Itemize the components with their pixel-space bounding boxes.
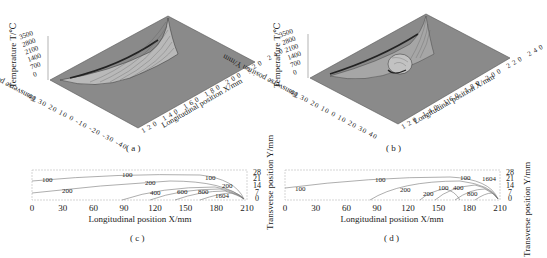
- svg-text:60: 60: [342, 203, 352, 213]
- svg-text:0: 0: [508, 194, 512, 203]
- panel-d-contour: 100 100 100 200 200 100 400 800 1604 0 3…: [270, 155, 540, 258]
- svg-text:100: 100: [205, 174, 216, 182]
- surface-plot-b: [270, 0, 540, 160]
- svg-text:1604: 1604: [482, 175, 497, 183]
- svg-text:0: 0: [283, 203, 288, 213]
- caption-c: ( c ): [130, 233, 145, 243]
- svg-text:100: 100: [122, 171, 133, 179]
- contour-plot-d: 100 100 100 200 200 100 400 800 1604 0 3…: [270, 155, 540, 258]
- svg-text:120: 120: [401, 203, 415, 213]
- svg-text:180: 180: [463, 203, 477, 213]
- svg-text:200: 200: [400, 186, 411, 194]
- x-axis-label-c: Longitudinal position X/mm: [89, 214, 192, 224]
- svg-text:200: 200: [145, 179, 156, 187]
- z-axis-label-a: Temperature T/℃: [8, 23, 18, 89]
- svg-text:400: 400: [150, 189, 161, 197]
- svg-text:90: 90: [373, 203, 383, 213]
- svg-text:90: 90: [120, 203, 130, 213]
- svg-text:100: 100: [42, 176, 53, 184]
- svg-text:1604: 1604: [215, 192, 230, 200]
- svg-text:600: 600: [177, 188, 188, 196]
- svg-text:200: 200: [222, 182, 233, 190]
- caption-b: ( b ): [386, 143, 401, 153]
- svg-text:400: 400: [453, 184, 464, 192]
- svg-text:0: 0: [255, 194, 259, 203]
- svg-text:150: 150: [179, 203, 193, 213]
- svg-text:200: 200: [62, 187, 73, 195]
- svg-text:180: 180: [210, 203, 224, 213]
- svg-text:800: 800: [467, 190, 478, 198]
- svg-text:210: 210: [240, 203, 254, 213]
- svg-text:120: 120: [148, 203, 162, 213]
- svg-text:210: 210: [493, 203, 507, 213]
- svg-text:30: 30: [311, 203, 321, 213]
- caption-d: ( d ): [384, 233, 399, 243]
- panel-a-surface: Temperature T/℃ 35002800210014007000 40 …: [0, 0, 270, 160]
- svg-text:0: 0: [30, 203, 35, 213]
- svg-text:150: 150: [432, 203, 446, 213]
- svg-text:200: 200: [423, 190, 434, 198]
- svg-text:60: 60: [89, 203, 99, 213]
- panel-c-contour: 100 100 100 200 200 200 400 600 800 1604…: [0, 155, 270, 258]
- svg-text:30: 30: [58, 203, 68, 213]
- svg-text:100: 100: [295, 185, 306, 193]
- svg-text:100: 100: [438, 184, 449, 192]
- panel-b-surface: Temperature T/℃ 35002800210014007000 40 …: [270, 0, 540, 160]
- svg-text:100: 100: [460, 174, 471, 182]
- y-axis-label-d: Transverse position Y/mm: [522, 162, 532, 257]
- x-axis-label-d: Longitudinal position X/mm: [341, 214, 444, 224]
- svg-text:100: 100: [375, 176, 386, 184]
- svg-text:800: 800: [198, 188, 209, 196]
- caption-a: ( a ): [126, 143, 141, 153]
